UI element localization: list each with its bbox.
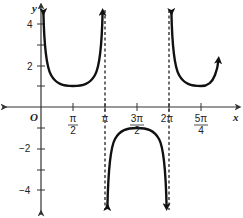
x-tick-label-pi: π — [102, 113, 109, 124]
csc-graph: y x O 4 2 −2 −4 π 2 π 3π 2 2π 5π 4 — [0, 0, 243, 218]
branch-1 — [43, 12, 102, 86]
x-tick-label-5pi-over-4: 5π 4 — [194, 113, 208, 136]
y-tick-label-neg2: −2 — [19, 143, 31, 154]
svg-text:2: 2 — [134, 125, 140, 136]
y-axis-label: y — [30, 2, 37, 14]
svg-text:3π: 3π — [131, 113, 144, 124]
y-tick-label-neg4: −4 — [19, 185, 31, 196]
branch-3 — [171, 12, 218, 86]
svg-text:2: 2 — [70, 125, 76, 136]
y-tick-label-4: 4 — [27, 19, 33, 30]
x-tick-label-3pi-over-2: 3π 2 — [130, 113, 144, 136]
x-tick-label-pi-over-2: π 2 — [68, 113, 78, 136]
svg-text:π: π — [70, 113, 77, 124]
origin-label: O — [30, 111, 38, 123]
x-axis-label: x — [232, 111, 239, 123]
svg-text:4: 4 — [198, 125, 204, 136]
function-curve — [43, 12, 218, 207]
x-tick-label-2pi: 2π — [161, 113, 174, 124]
branch-2 — [107, 128, 166, 207]
axis-labels: y x O 4 2 −2 −4 π 2 π 3π 2 2π 5π 4 — [19, 2, 239, 196]
svg-text:5π: 5π — [195, 113, 208, 124]
y-tick-label-2: 2 — [27, 61, 33, 72]
